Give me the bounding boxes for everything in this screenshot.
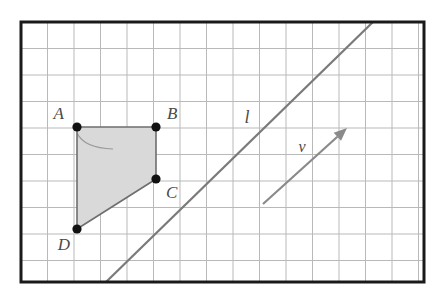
vertex-point-b [151, 122, 160, 131]
vertex-label-b: B [167, 104, 178, 123]
figure-canvas: ABCD l v [0, 0, 442, 301]
vertex-point-d [72, 224, 81, 233]
line-l-label: l [244, 107, 249, 127]
vertex-label-a: A [53, 104, 65, 123]
vertex-label-c: C [166, 183, 178, 202]
vertex-label-d: D [57, 235, 71, 254]
geometry-figure: ABCD l v [0, 0, 442, 301]
vector-v-label: v [298, 138, 306, 155]
vertex-point-a [72, 122, 81, 131]
vertex-point-c [151, 174, 160, 183]
